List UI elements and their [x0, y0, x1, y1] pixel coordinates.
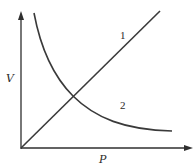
x-axis-arrow-icon	[184, 145, 193, 151]
series-2-curve	[34, 13, 172, 131]
series-2-label: 2	[120, 100, 126, 111]
x-axis-label: P	[99, 154, 106, 165]
series-1-label: 1	[120, 30, 126, 41]
y-axis-label: V	[6, 73, 14, 84]
pv-plot	[0, 0, 196, 168]
y-axis-arrow-icon	[18, 11, 24, 20]
